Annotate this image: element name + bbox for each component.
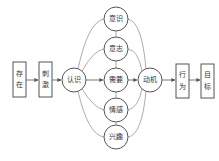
will-label: 意志 — [109, 44, 123, 53]
emotion-label: 情感 — [109, 105, 123, 114]
node-motivation: 动机 — [138, 68, 162, 92]
motivation-flow-diagram: 存 在 刺 激 认识 意识 意志 需要 情感 兴趣 动机 行 为 — [0, 0, 219, 161]
motivation-label: 动机 — [143, 75, 157, 84]
node-need: 需要 — [104, 68, 128, 92]
goal-label-2: 标 — [204, 82, 211, 91]
behavior-label-1: 行 — [179, 70, 186, 79]
node-goal: 目 标 — [201, 64, 214, 98]
existence-label-2: 在 — [16, 80, 23, 89]
goal-label-1: 目 — [204, 71, 211, 79]
node-interest: 兴趣 — [104, 125, 128, 149]
cognition-label: 认识 — [67, 75, 81, 84]
interest-label: 兴趣 — [109, 132, 123, 141]
node-consciousness: 意识 — [104, 7, 128, 31]
node-existence: 存 在 — [13, 62, 26, 97]
node-will: 意志 — [104, 37, 128, 61]
stimulus-label-1: 刺 — [42, 69, 49, 78]
node-stimulus: 刺 激 — [39, 62, 52, 97]
stimulus-label-2: 激 — [42, 80, 49, 89]
node-emotion: 情感 — [104, 98, 128, 122]
need-label: 需要 — [109, 76, 123, 84]
behavior-label-2: 为 — [179, 82, 186, 91]
consciousness-label: 意识 — [109, 14, 123, 23]
node-cognition: 认识 — [62, 68, 86, 92]
existence-label-1: 存 — [16, 69, 23, 78]
node-behavior: 行 为 — [176, 64, 189, 98]
